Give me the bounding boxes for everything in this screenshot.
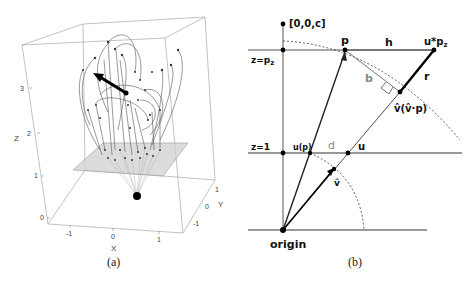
z-axis-ticks (29, 88, 50, 218)
point-projection (398, 90, 403, 95)
label-p: p (341, 34, 349, 47)
label-d: d (328, 139, 335, 152)
label-z-pz: z=pz (251, 55, 274, 67)
y-tick-1: 1 (215, 186, 219, 193)
trajectory (108, 42, 115, 150)
label-u-pz: u*pz (424, 36, 448, 49)
label-z-1: z=1 (251, 142, 270, 152)
panel-a: 3 2 1 0 Z -1 0 1 X 1 0 -1 Y (a) (14, 17, 224, 269)
trajectory (115, 44, 141, 80)
y-tick-neg1: -1 (193, 220, 199, 227)
label-v-hat: v̂ (334, 178, 340, 188)
vector-p (283, 52, 345, 230)
point-u (346, 151, 351, 156)
central-arrow-base (124, 91, 129, 96)
panel-b: [0,0,c] z=pz p h u*pz b r v̂(v̂·p) z=1 u… (248, 18, 462, 269)
box-edge (48, 170, 85, 224)
point-p (343, 48, 348, 53)
box-edge (22, 24, 83, 45)
box-edge (22, 38, 165, 45)
z-tick-1: 1 (34, 172, 38, 179)
x-tick-neg1: -1 (66, 230, 72, 237)
bounding-box (22, 17, 215, 233)
points (280, 22, 436, 233)
trajectory (104, 60, 112, 155)
vector-v-hat (283, 170, 333, 230)
segment-b (345, 50, 400, 92)
z-tick-2: 2 (27, 130, 31, 137)
x-axis-label: X (111, 244, 117, 253)
figure: 3 2 1 0 Z -1 0 1 X 1 0 -1 Y (a) (0, 0, 472, 282)
box-edge (165, 17, 205, 38)
z-tick-3: 3 (20, 85, 24, 92)
label-u: u (358, 141, 365, 152)
z-tick-0: 0 (40, 214, 44, 221)
label-b: b (365, 72, 373, 85)
label-top-point: [0,0,c] (289, 18, 326, 29)
z-axis-label: Z (14, 134, 19, 143)
trajectories (79, 35, 182, 155)
y-axis-label: Y (218, 200, 224, 209)
box-edge (83, 24, 85, 170)
box-edge (83, 17, 205, 24)
caption-a: (a) (107, 255, 120, 269)
label-u-of-p: u(p) (293, 143, 312, 152)
y-tick-0: 0 (205, 203, 209, 210)
point-axis-1 (281, 151, 286, 156)
caption-b: (b) (348, 255, 362, 269)
right-angle-marker (381, 82, 393, 94)
label-projection: v̂(v̂·p) (394, 103, 427, 114)
label-r: r (424, 70, 430, 83)
grey-plane (73, 143, 188, 176)
box-edge (22, 45, 48, 224)
label-h: h (385, 36, 393, 49)
point-axis-pz (281, 48, 286, 53)
point-origin (280, 227, 286, 233)
point-v-hat (332, 167, 336, 171)
trajectory (96, 105, 105, 150)
point-u-pz (432, 48, 437, 53)
box-edge (205, 17, 215, 180)
x-tick-1: 1 (157, 236, 161, 243)
box-edge (165, 38, 183, 233)
trajectory (160, 50, 182, 140)
point-top (281, 22, 286, 27)
small-arc (310, 153, 364, 230)
origin-sphere (133, 192, 141, 200)
x-tick-0: 0 (111, 233, 115, 240)
label-origin: origin (270, 238, 306, 251)
